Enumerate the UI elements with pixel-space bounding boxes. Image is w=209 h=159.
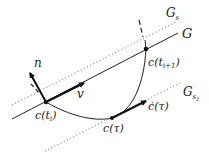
label-v: v [77,87,84,101]
label-c-ti1: c(ti+1) [148,56,180,70]
tangent-vector-cdot-tau [112,101,146,118]
label-c-tau: c(τ) [103,122,124,135]
label-cdot-tau: ċ(τ) [148,100,169,113]
label-n: n [34,56,42,70]
normal-vector-n [30,73,46,102]
label-Gs1: Gs1 [183,85,199,102]
point-c-tau [110,116,114,120]
point-c-ti1 [144,47,149,52]
label-c-ti: c(ti) [35,109,56,123]
geodesic-diagram: G Gs Gs1 n v c(ti) c(ti+1) c(τ) ċ(τ) [0,0,209,159]
point-c-ti [44,100,49,105]
dash-tick-top [139,20,143,37]
label-G: G [182,26,192,41]
label-Gs: Gs [166,6,180,22]
